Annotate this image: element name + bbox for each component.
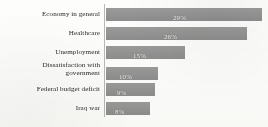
plot-area: Economy in general 29% Healthcare 26% Un… bbox=[0, 0, 268, 127]
bar-value-label: 26% bbox=[164, 32, 177, 42]
category-label: Economy in general bbox=[0, 10, 100, 18]
bar[interactable]: 26% bbox=[106, 27, 247, 40]
bar-value-label: 15% bbox=[133, 51, 146, 61]
chart-row: Healthcare 26% bbox=[0, 24, 268, 43]
bar[interactable]: 15% bbox=[106, 46, 185, 59]
bar-value-label: 29% bbox=[173, 13, 186, 23]
bar[interactable]: 8% bbox=[106, 102, 150, 115]
bar-value-label: 8% bbox=[115, 107, 125, 117]
bar[interactable]: 29% bbox=[106, 8, 262, 21]
category-label: Federal budget deficit bbox=[0, 85, 100, 93]
horizontal-bar-chart: Economy in general 29% Healthcare 26% Un… bbox=[0, 0, 268, 127]
category-label: Dissatisfaction with government bbox=[0, 61, 100, 78]
bar[interactable]: 10% bbox=[106, 67, 158, 80]
chart-row: Dissatisfaction with government 10% bbox=[0, 60, 268, 79]
category-label: Unemployment bbox=[0, 48, 100, 56]
bar[interactable]: 9% bbox=[106, 83, 155, 96]
chart-row: Iraq war 8% bbox=[0, 99, 268, 118]
chart-row: Federal budget deficit 9% bbox=[0, 80, 268, 99]
chart-row: Economy in general 29% bbox=[0, 5, 268, 24]
category-label: Healthcare bbox=[0, 29, 100, 37]
bar-value-label: 9% bbox=[117, 88, 127, 98]
category-label: Iraq war bbox=[0, 104, 100, 112]
